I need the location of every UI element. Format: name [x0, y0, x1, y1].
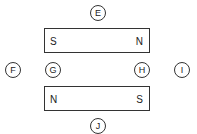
point-j: J — [90, 118, 106, 134]
magnet-top: S N — [44, 28, 150, 53]
point-h: H — [134, 62, 150, 78]
pole-label-top-right: N — [136, 35, 143, 46]
pole-label-bottom-right: S — [136, 93, 143, 104]
point-e: E — [90, 5, 106, 21]
pole-label-bottom-left: N — [50, 93, 57, 104]
pole-label-top-left: S — [50, 35, 57, 46]
magnet-bottom: N S — [44, 86, 150, 111]
point-f: F — [5, 62, 21, 78]
point-i: I — [174, 62, 190, 78]
point-g: G — [45, 62, 61, 78]
